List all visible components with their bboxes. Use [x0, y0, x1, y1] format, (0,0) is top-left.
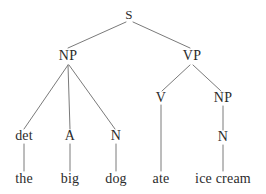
tree-edge-S-VP [133, 22, 190, 48]
edge-group [24, 22, 223, 171]
tree-node-NP1: NP [59, 49, 77, 63]
tree-edge-VP-NP2 [193, 65, 221, 91]
tree-node-V: V [156, 91, 166, 105]
tree-node-det: det [15, 129, 33, 143]
tree-edge-NP1-N1 [69, 65, 115, 129]
tree-node-A: A [65, 129, 75, 143]
tree-edge-NP1-A [68, 65, 70, 129]
tree-node-the: the [15, 172, 33, 186]
tree-node-big: big [61, 172, 80, 186]
tree-node-VP: VP [183, 49, 201, 63]
tree-edge-VP-V [162, 65, 190, 91]
tree-node-N2: N [218, 130, 228, 144]
tree-node-icecream: ice cream [195, 172, 251, 186]
tree-edge-S-NP1 [68, 22, 126, 48]
tree-node-N1: N [111, 129, 121, 143]
syntax-tree-diagram: SNPVPdetANVNPNthebigdogateice cream [0, 0, 266, 194]
tree-node-NP2: NP [214, 91, 232, 105]
tree-node-dog: dog [105, 172, 127, 186]
tree-node-S: S [125, 8, 132, 21]
tree-node-ate: ate [153, 172, 170, 186]
tree-edge-NP1-det [24, 65, 68, 129]
